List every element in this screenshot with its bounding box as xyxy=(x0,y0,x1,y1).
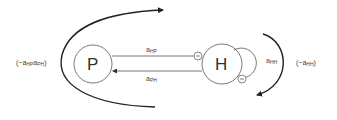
label-outer-left-loop: (−aHPaPH) xyxy=(16,59,46,67)
diagram-canvas xyxy=(0,0,337,120)
label-outer-right-loop: (−aHH) xyxy=(296,59,316,67)
label-a-ph: aPH xyxy=(146,75,157,83)
label-a-hp: aHP xyxy=(146,46,157,54)
node-p-label: P xyxy=(87,56,98,73)
node-h-label: H xyxy=(215,56,227,73)
label-a-hh: aHH xyxy=(266,57,277,65)
